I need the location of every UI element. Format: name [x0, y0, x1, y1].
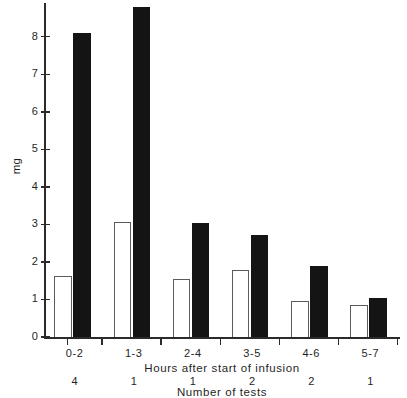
bar-group	[291, 3, 328, 337]
bar-group	[54, 3, 91, 337]
y-axis-tick	[41, 149, 50, 150]
number-of-tests-value: 1	[104, 375, 163, 387]
x-axis-category-label: 1-3	[104, 347, 163, 359]
y-axis-tick-label: 5	[16, 143, 38, 154]
bar-open	[232, 270, 250, 337]
y-axis-tick	[41, 224, 50, 225]
bar-open	[173, 279, 191, 337]
y-axis-tick	[41, 299, 50, 300]
y-axis-tick-label: 8	[16, 31, 38, 42]
x-axis-category-label: 2-4	[163, 347, 222, 359]
x-axis-line	[44, 337, 400, 339]
number-of-tests-title: Number of tests	[44, 386, 400, 398]
number-of-tests-value: 4	[45, 375, 104, 387]
x-axis-category-label: 4-6	[282, 347, 341, 359]
bar-group	[350, 3, 387, 337]
bar-group	[173, 3, 210, 337]
x-axis-tick	[338, 338, 339, 345]
bar-group	[114, 3, 151, 337]
bar-open	[114, 222, 132, 337]
plot-area	[45, 3, 400, 337]
x-axis-tick	[279, 338, 280, 345]
y-axis-tick	[41, 261, 50, 262]
x-axis-title: Hours after start of infusion	[44, 362, 400, 374]
bar-filled	[310, 266, 328, 337]
bar-filled	[369, 298, 387, 337]
bar-open	[350, 305, 368, 337]
x-axis-category-label: 3-5	[223, 347, 282, 359]
y-axis-tick-labels: 012345678	[12, 0, 38, 398]
bar-filled	[73, 33, 91, 337]
x-axis-tick	[101, 338, 102, 345]
number-of-tests-value: 1	[163, 375, 222, 387]
x-axis-category-label: 0-2	[45, 347, 104, 359]
bar-group	[232, 3, 269, 337]
x-axis-tick	[397, 338, 398, 345]
bar-open	[54, 276, 72, 337]
x-axis-tick	[67, 338, 68, 345]
bar-open	[291, 301, 309, 337]
x-axis-category-label: 5-7	[341, 347, 400, 359]
y-axis-tick	[41, 186, 50, 187]
y-axis-tick-label: 2	[16, 256, 38, 267]
y-axis-tick-label: 3	[16, 218, 38, 229]
bar-filled	[192, 223, 210, 337]
y-axis-tick	[41, 336, 50, 337]
number-of-tests-value: 2	[282, 375, 341, 387]
y-axis-tick-label: 0	[16, 331, 38, 342]
x-axis-tick	[160, 338, 161, 345]
number-of-tests-value: 2	[223, 375, 282, 387]
y-axis-tick-label: 6	[16, 106, 38, 117]
bar-chart-figure: mg 012345678 Hours after start of infusi…	[0, 0, 407, 398]
bar-filled	[133, 7, 151, 337]
y-axis-tick	[41, 74, 50, 75]
bar-filled	[251, 235, 269, 337]
y-axis-tick-label: 4	[16, 181, 38, 192]
y-axis-tick-label: 7	[16, 68, 38, 79]
y-axis-tick-label: 1	[16, 293, 38, 304]
y-axis-tick	[41, 36, 50, 37]
number-of-tests-value: 1	[341, 375, 400, 387]
x-axis-tick	[220, 338, 221, 345]
y-axis-tick	[41, 111, 50, 112]
